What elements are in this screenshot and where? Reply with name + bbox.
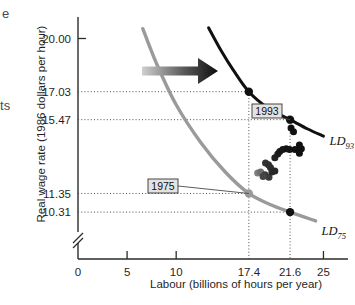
point-1993-a [245,88,253,96]
x-tick-label-0: 0 [75,266,81,278]
x-tick-label-10: 10 [170,266,183,278]
scatter-point [296,150,303,157]
chart-axes [73,17,348,259]
scatter-points [254,125,305,181]
labour-demand-chart: 20.0017.0315.4711.3510.31 051017.421.625… [0,0,355,305]
shift-arrow-shape [142,58,218,84]
y-axis-ticks: 20.0017.0315.4711.3510.31 [42,33,86,219]
x-tick-label-17.4: 17.4 [238,266,261,278]
curve-labels: LD75LD93 [321,134,354,241]
callout-label-1975: 1975 [151,180,175,192]
x-tick-label-21.6: 21.6 [279,266,301,278]
shift-arrow [142,58,218,84]
figure-container: e ts 20.0017.0315.4711.3510.31 051017.42… [0,0,355,305]
scatter-point [265,161,272,168]
callout-label-1993: 1993 [255,105,279,117]
curve-label-LD_93: LD93 [328,134,353,151]
curve-label-subscript: 75 [338,231,347,241]
curve-label-LD_75: LD75 [321,224,346,241]
scatter-point [271,168,278,175]
x-axis-label: Labour (billions of hours per year) [150,278,322,290]
y-axis-label: Real wage rate (1986 dollars per hour) [35,25,47,222]
callout-leader-1975 [178,186,249,193]
curve-label-subscript: 93 [345,141,354,151]
x-tick-label-5: 5 [124,266,130,278]
scatter-point [260,173,267,180]
x-tick-label-25: 25 [317,266,330,278]
y-tick-label-11.35: 11.35 [43,188,71,200]
point-1975-b [286,208,294,216]
x-axis-ticks: 051017.421.625 [75,251,330,278]
scatter-point [288,125,295,132]
